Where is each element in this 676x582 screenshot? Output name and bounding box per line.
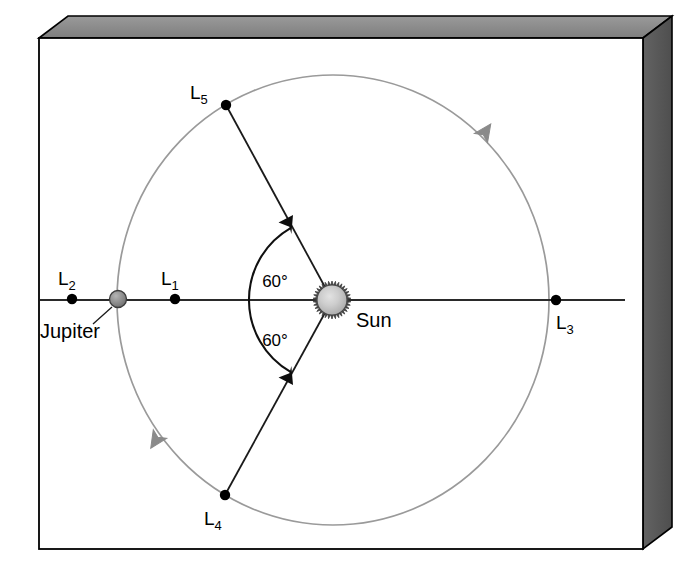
lagrange-label-base: L bbox=[161, 268, 172, 289]
lagrange-label-base: L bbox=[556, 312, 567, 333]
lagrange-point-marker[interactable] bbox=[221, 100, 231, 110]
jupiter-label: Jupiter bbox=[40, 320, 100, 342]
lagrange-label-base: L bbox=[204, 508, 215, 529]
sun-disc bbox=[317, 285, 347, 315]
panel-bevel-top bbox=[39, 16, 672, 38]
lagrange-point-marker[interactable] bbox=[220, 490, 230, 500]
panel-bevel-right bbox=[643, 16, 672, 549]
angle-lower-label: 60° bbox=[262, 331, 288, 350]
lagrange-label-subscript: 5 bbox=[201, 92, 208, 107]
lagrange-point-marker[interactable] bbox=[170, 294, 180, 304]
lagrange-point-diagram: Sun Jupiter L1L2L3L4L5 60°60° bbox=[0, 0, 676, 582]
jupiter-disc bbox=[110, 291, 127, 308]
lagrange-label-subscript: 2 bbox=[69, 278, 76, 293]
lagrange-label-base: L bbox=[58, 268, 69, 289]
lagrange-label-base: L bbox=[190, 82, 201, 103]
lagrange-label-subscript: 3 bbox=[567, 322, 574, 337]
lagrange-point-marker[interactable] bbox=[67, 294, 77, 304]
sun-label: Sun bbox=[356, 309, 392, 331]
figure-canvas: Sun Jupiter L1L2L3L4L5 60°60° bbox=[0, 0, 676, 582]
lagrange-label-subscript: 4 bbox=[215, 518, 222, 533]
angle-upper-label: 60° bbox=[262, 272, 288, 291]
panel-frame-3d bbox=[39, 16, 672, 549]
lagrange-point-marker[interactable] bbox=[551, 295, 561, 305]
lagrange-label-subscript: 1 bbox=[172, 278, 179, 293]
